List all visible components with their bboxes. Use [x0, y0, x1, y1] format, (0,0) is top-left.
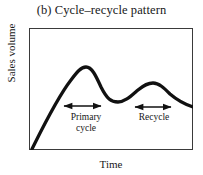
recycle-label: Recycle: [124, 112, 184, 123]
y-axis-label: Sales volume: [5, 5, 17, 101]
figure-title: (b) Cycle–recycle pattern: [0, 3, 203, 18]
sales-volume-curve: [32, 67, 193, 149]
x-axis-label: Time: [29, 158, 193, 171]
primary-cycle-label: Primary cycle: [52, 112, 120, 134]
primary-cycle-label-line2: cycle: [52, 123, 120, 134]
figure-cycle-recycle-pattern: (b) Cycle–recycle pattern Sales volume P…: [0, 0, 203, 175]
primary-cycle-label-line1: Primary: [52, 112, 120, 123]
